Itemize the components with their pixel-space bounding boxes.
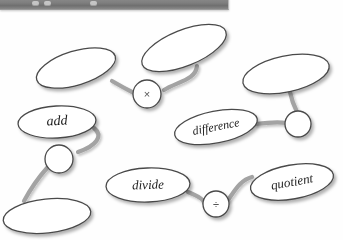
- toolbar-button-1[interactable]: [32, 1, 39, 6]
- node-circle-empty-right[interactable]: [285, 111, 311, 137]
- connector-topleft-to-multiply[interactable]: [112, 81, 134, 93]
- connector-circle-left-to-bottomleft[interactable]: [24, 168, 47, 201]
- node-ellipse-add[interactable]: [17, 104, 97, 140]
- connector-divide-to-divide-op[interactable]: [188, 192, 204, 203]
- diagram-surface: [0, 0, 343, 240]
- node-circle-divide[interactable]: [203, 191, 229, 217]
- node-layer: [1, 14, 336, 237]
- node-ellipse-divide[interactable]: [105, 167, 190, 204]
- application-toolbar[interactable]: [0, 0, 229, 10]
- toolbar-button-3[interactable]: [90, 1, 97, 6]
- node-ellipse-quotient[interactable]: [248, 158, 337, 206]
- node-ellipse-top-middle[interactable]: [136, 14, 233, 81]
- node-ellipse-top-right[interactable]: [239, 47, 333, 101]
- diagram-canvas[interactable]: add difference divide quotient × ÷: [0, 0, 343, 240]
- node-ellipse-bottom-left[interactable]: [1, 194, 92, 237]
- node-ellipse-top-left[interactable]: [32, 40, 120, 96]
- connector-topright-to-circle-right[interactable]: [290, 92, 297, 112]
- node-ellipse-difference[interactable]: [172, 103, 261, 150]
- node-circle-empty-left[interactable]: [45, 145, 73, 173]
- connector-difference-to-circle-right[interactable]: [256, 122, 286, 124]
- toolbar-button-2[interactable]: [44, 1, 51, 6]
- node-circle-multiply[interactable]: [133, 80, 161, 108]
- connector-divide-op-to-quotient[interactable]: [228, 177, 252, 200]
